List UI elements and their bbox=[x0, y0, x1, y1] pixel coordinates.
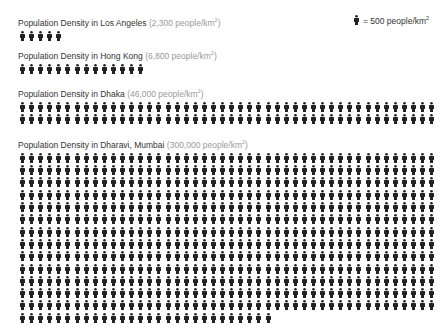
person-icon bbox=[327, 227, 336, 239]
person-icon bbox=[318, 190, 327, 202]
person-icon bbox=[336, 214, 345, 226]
person-icon bbox=[300, 214, 309, 226]
person-icon bbox=[200, 251, 209, 263]
person-icon bbox=[45, 264, 54, 276]
person-icon bbox=[291, 153, 300, 165]
person-icon bbox=[18, 177, 27, 189]
person-icon bbox=[182, 227, 191, 239]
person-icon bbox=[282, 202, 291, 214]
person-icon bbox=[418, 276, 427, 288]
person-icon bbox=[345, 165, 354, 177]
person-icon bbox=[18, 31, 27, 43]
person-icon bbox=[327, 239, 336, 251]
person-icon bbox=[91, 276, 100, 288]
person-icon bbox=[291, 251, 300, 263]
person-icon bbox=[145, 202, 154, 214]
person-icon bbox=[182, 177, 191, 189]
person-icon bbox=[364, 276, 373, 288]
person-icon bbox=[373, 300, 382, 312]
person-icon bbox=[73, 177, 82, 189]
person-icon bbox=[264, 165, 273, 177]
person-icon bbox=[418, 190, 427, 202]
person-icon bbox=[309, 276, 318, 288]
person-icon bbox=[127, 288, 136, 300]
person-icon bbox=[145, 190, 154, 202]
person-icon bbox=[245, 214, 254, 226]
person-icon bbox=[118, 300, 127, 312]
person-icon bbox=[73, 300, 82, 312]
person-icon bbox=[245, 165, 254, 177]
person-icon bbox=[127, 214, 136, 226]
person-icon bbox=[273, 276, 282, 288]
person-icon bbox=[91, 177, 100, 189]
person-icon bbox=[27, 313, 36, 325]
person-icon bbox=[254, 264, 263, 276]
person-icon bbox=[182, 102, 191, 114]
person-icon bbox=[254, 153, 263, 165]
person-icon bbox=[227, 300, 236, 312]
person-icon bbox=[109, 64, 118, 76]
person-icon bbox=[264, 276, 273, 288]
person-icon bbox=[364, 114, 373, 126]
person-icon bbox=[118, 165, 127, 177]
person-icon bbox=[273, 264, 282, 276]
person-icon bbox=[264, 102, 273, 114]
person-icon bbox=[82, 276, 91, 288]
person-icon bbox=[73, 264, 82, 276]
person-icon bbox=[154, 264, 163, 276]
person-icon bbox=[391, 264, 400, 276]
person-icon bbox=[73, 102, 82, 114]
person-icon bbox=[364, 153, 373, 165]
person-icon bbox=[245, 202, 254, 214]
person-icon bbox=[400, 190, 409, 202]
person-icon bbox=[354, 288, 363, 300]
person-icon bbox=[309, 300, 318, 312]
person-icon bbox=[254, 239, 263, 251]
person-icon bbox=[400, 165, 409, 177]
person-icon bbox=[245, 251, 254, 263]
person-icon bbox=[27, 202, 36, 214]
person-icon bbox=[236, 300, 245, 312]
person-icon bbox=[309, 190, 318, 202]
person-icon bbox=[54, 251, 63, 263]
person-icon bbox=[27, 214, 36, 226]
person-icon bbox=[45, 165, 54, 177]
person-icon bbox=[27, 300, 36, 312]
person-icon bbox=[391, 227, 400, 239]
person-icon bbox=[191, 102, 200, 114]
person-icon bbox=[336, 190, 345, 202]
person-icon bbox=[327, 102, 336, 114]
person-icon bbox=[54, 313, 63, 325]
person-icon bbox=[109, 251, 118, 263]
person-icon bbox=[309, 177, 318, 189]
person-icon bbox=[273, 165, 282, 177]
person-icon bbox=[409, 202, 418, 214]
person-icon bbox=[182, 153, 191, 165]
person-icon bbox=[73, 64, 82, 76]
person-icon bbox=[291, 214, 300, 226]
person-icon bbox=[154, 251, 163, 263]
person-icon bbox=[427, 251, 436, 263]
person-icon bbox=[45, 190, 54, 202]
person-icon bbox=[382, 288, 391, 300]
person-icon bbox=[73, 251, 82, 263]
person-icon bbox=[318, 114, 327, 126]
person-icon bbox=[373, 102, 382, 114]
person-icon bbox=[145, 114, 154, 126]
person-icon bbox=[364, 214, 373, 226]
person-icon bbox=[209, 165, 218, 177]
person-icon bbox=[209, 214, 218, 226]
person-icon bbox=[100, 227, 109, 239]
person-icon bbox=[309, 214, 318, 226]
person-icon bbox=[154, 202, 163, 214]
person-icon bbox=[82, 251, 91, 263]
person-icon bbox=[100, 288, 109, 300]
person-icon bbox=[409, 190, 418, 202]
person-icon bbox=[291, 165, 300, 177]
chart-section: Population Density in Los Angeles (2,300… bbox=[18, 15, 438, 43]
person-icon bbox=[27, 288, 36, 300]
person-icon bbox=[273, 202, 282, 214]
person-icon bbox=[227, 114, 236, 126]
person-icon bbox=[36, 31, 45, 43]
person-icon bbox=[164, 264, 173, 276]
